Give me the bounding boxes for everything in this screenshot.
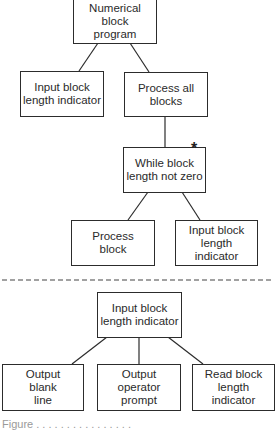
- figure-caption: Figure . . . . . . . . . . . . . . . .: [2, 418, 131, 430]
- box-label: Read block length indicator: [205, 368, 263, 407]
- link-while-to-process-block: [128, 192, 148, 220]
- box-input-block-length-indicator-loop: Input block length indicator: [175, 220, 258, 266]
- box-read-block-length-indicator: Read block length indicator: [192, 364, 275, 411]
- link-lower-to-output-blank: [72, 337, 107, 364]
- box-process-block: Process block: [71, 220, 155, 266]
- box-label: While block length not zero: [126, 157, 202, 183]
- box-label: Input block length indicator: [101, 302, 179, 328]
- box-process-all-blocks: Process all blocks: [124, 72, 208, 117]
- box-label: Input block length indicator: [23, 81, 101, 107]
- link-lower-to-read-block: [168, 337, 203, 364]
- box-input-block-length-indicator-top: Input block length indicator: [20, 71, 104, 117]
- link-while-to-input-block: [182, 192, 200, 220]
- box-numerical-block-program: Numerical block program: [73, 0, 157, 44]
- link-root-to-input: [79, 43, 98, 71]
- box-label: Numerical block program: [89, 2, 141, 41]
- link-root-to-process-all: [130, 43, 149, 72]
- iteration-asterisk-icon: *: [191, 141, 197, 157]
- box-output-operator-prompt: Output operator prompt: [97, 364, 181, 411]
- box-label: Process all blocks: [138, 82, 194, 108]
- box-label: Process block: [92, 230, 134, 256]
- box-label: Output blank line: [26, 368, 61, 407]
- box-input-block-length-indicator-detail: Input block length indicator: [97, 292, 182, 338]
- box-output-blank-line: Output blank line: [2, 364, 84, 411]
- box-label: Input block length indicator: [178, 224, 255, 263]
- box-label: Output operator prompt: [118, 368, 161, 407]
